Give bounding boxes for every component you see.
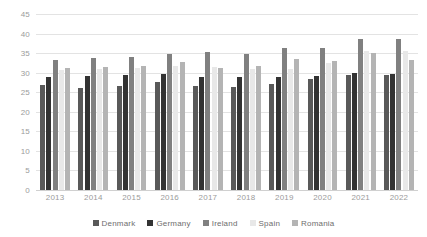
y-axis-tick-label: 35 <box>21 49 30 58</box>
bar-group <box>227 14 265 190</box>
gridline <box>36 190 418 191</box>
bar <box>308 79 313 190</box>
bar <box>117 86 122 190</box>
legend-item[interactable]: Spain <box>250 219 280 228</box>
bar <box>250 69 255 190</box>
x-axis-tick-label: 2021 <box>342 193 380 209</box>
legend-item[interactable]: Romania <box>292 219 334 228</box>
y-axis-tick-label: 40 <box>21 29 30 38</box>
bar <box>218 68 223 190</box>
legend-item[interactable]: Denmark <box>93 219 136 228</box>
bar-group <box>303 14 341 190</box>
legend-swatch-icon <box>292 220 298 226</box>
bar <box>346 75 351 190</box>
bar-group <box>189 14 227 190</box>
bar <box>320 48 325 190</box>
bar-group <box>380 14 418 190</box>
legend-label: Spain <box>259 219 280 228</box>
bar-group <box>74 14 112 190</box>
y-axis: 454035302520151050 <box>0 0 36 204</box>
y-axis-tick-label: 20 <box>21 107 30 116</box>
bar <box>364 51 369 190</box>
y-axis-tick-label: 0 <box>25 186 30 195</box>
bar <box>78 88 83 190</box>
legend-swatch-icon <box>203 220 209 226</box>
legend-item[interactable]: Ireland <box>203 219 238 228</box>
bar <box>141 66 146 190</box>
legend-label: Ireland <box>212 219 238 228</box>
bar-group <box>112 14 150 190</box>
bar <box>65 68 70 190</box>
x-axis-tick-label: 2022 <box>380 193 418 209</box>
y-axis-tick-label: 45 <box>21 10 30 19</box>
bar <box>129 57 134 190</box>
bar <box>180 62 185 190</box>
plot-area <box>36 14 418 190</box>
bar <box>256 66 261 190</box>
x-axis-tick-label: 2013 <box>36 193 74 209</box>
bar <box>332 61 337 190</box>
bar <box>46 77 51 190</box>
bar <box>276 77 281 190</box>
x-axis-tick-label: 2020 <box>303 193 341 209</box>
legend-swatch-icon <box>147 220 153 226</box>
y-axis-tick-label: 30 <box>21 68 30 77</box>
x-axis: 2013201420152016201720182019202020212022 <box>36 193 418 209</box>
legend-item[interactable]: Germany <box>147 219 190 228</box>
bar-groups <box>36 14 418 190</box>
bar-group <box>265 14 303 190</box>
bar <box>59 70 64 190</box>
bar <box>409 60 414 190</box>
bar <box>294 59 299 190</box>
bar <box>396 39 401 190</box>
bar <box>97 69 102 190</box>
bar <box>352 73 357 190</box>
bar-group <box>36 14 74 190</box>
bar <box>371 53 376 190</box>
x-axis-tick-label: 2018 <box>227 193 265 209</box>
bar <box>205 52 210 190</box>
bar <box>282 48 287 190</box>
bar <box>384 75 389 190</box>
bar <box>314 76 319 190</box>
bar-group <box>151 14 189 190</box>
bar <box>123 75 128 190</box>
x-axis-tick-label: 2016 <box>151 193 189 209</box>
legend-swatch-icon <box>93 220 99 226</box>
x-axis-tick-label: 2017 <box>189 193 227 209</box>
x-axis-tick-label: 2014 <box>74 193 112 209</box>
bar <box>135 68 140 190</box>
bar <box>269 84 274 190</box>
bar-chart: 454035302520151050 201320142015201620172… <box>0 0 427 237</box>
x-axis-tick-label: 2019 <box>265 193 303 209</box>
y-axis-tick-label: 15 <box>21 127 30 136</box>
bar <box>161 74 166 190</box>
bar <box>237 77 242 190</box>
y-axis-tick-label: 10 <box>21 146 30 155</box>
bar <box>193 86 198 190</box>
bar <box>85 76 90 190</box>
bar <box>40 85 45 190</box>
bar <box>173 66 178 190</box>
bar <box>103 67 108 190</box>
x-axis-tick-label: 2015 <box>112 193 150 209</box>
legend-label: Germany <box>156 219 190 228</box>
bar <box>326 63 331 190</box>
bar <box>53 60 58 190</box>
bar <box>288 69 293 190</box>
bar <box>244 54 249 190</box>
bar <box>231 87 236 190</box>
bar <box>212 67 217 190</box>
bar <box>199 77 204 190</box>
bar <box>167 54 172 190</box>
legend-label: Denmark <box>102 219 136 228</box>
bar-group <box>342 14 380 190</box>
bar <box>403 51 408 190</box>
bar <box>155 82 160 190</box>
bar <box>358 39 363 190</box>
bar <box>390 74 395 190</box>
legend-swatch-icon <box>250 220 256 226</box>
legend-label: Romania <box>301 219 334 228</box>
y-axis-tick-label: 5 <box>25 166 30 175</box>
bar <box>91 58 96 190</box>
